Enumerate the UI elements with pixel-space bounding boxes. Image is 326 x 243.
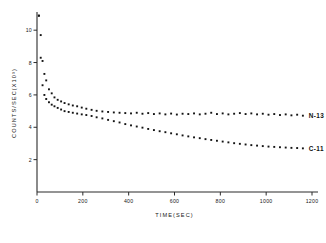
data-point: [233, 142, 235, 144]
x-tick-label: 400: [124, 198, 134, 204]
y-tick-label: 4: [29, 124, 32, 130]
series-c-11: [38, 15, 304, 150]
data-point: [164, 131, 166, 133]
data-point: [193, 112, 195, 114]
data-point: [57, 107, 59, 109]
data-point: [147, 112, 149, 114]
data-point: [268, 114, 270, 116]
x-tick-label: 600: [170, 198, 180, 204]
data-point: [182, 113, 184, 115]
x-tick-label: 1000: [260, 198, 273, 204]
data-point: [45, 98, 47, 100]
data-point: [216, 113, 218, 115]
data-point: [176, 133, 178, 135]
data-point: [273, 146, 275, 148]
data-point: [60, 100, 62, 102]
series-label-c-11: C-11: [309, 145, 324, 152]
x-tick-label: 0: [35, 198, 38, 204]
data-point: [54, 96, 56, 98]
y-tick-label: 6: [29, 92, 32, 98]
data-point: [268, 146, 270, 148]
data-point: [107, 111, 109, 113]
data-point: [227, 113, 229, 115]
data-point: [76, 105, 78, 107]
data-point: [96, 116, 98, 118]
y-tick-label: 8: [29, 60, 32, 66]
data-point: [199, 113, 201, 115]
data-point: [256, 113, 258, 115]
data-point: [96, 110, 98, 112]
data-point: [290, 114, 292, 116]
data-point: [239, 143, 241, 145]
data-point: [54, 105, 56, 107]
data-point: [42, 60, 44, 62]
data-point: [210, 139, 212, 141]
data-point: [245, 113, 247, 115]
data-point: [76, 113, 78, 115]
data-point: [250, 144, 252, 146]
data-point: [170, 132, 172, 134]
data-point: [279, 146, 281, 148]
data-point: [51, 104, 53, 106]
data-point: [85, 108, 87, 110]
data-point: [64, 110, 66, 112]
data-point: [170, 113, 172, 115]
data-point: [136, 126, 138, 128]
data-point: [210, 112, 212, 114]
data-point: [222, 141, 224, 143]
data-point: [91, 109, 93, 111]
data-point: [64, 102, 66, 104]
data-point: [142, 127, 144, 129]
data-point: [285, 147, 287, 149]
data-point: [302, 147, 304, 149]
data-point: [72, 105, 74, 107]
data-point: [68, 111, 70, 113]
series-n-13: [38, 15, 304, 117]
data-point: [42, 84, 44, 86]
data-point: [119, 112, 121, 114]
x-tick-label: 200: [78, 198, 88, 204]
data-point: [85, 114, 87, 116]
data-point: [279, 114, 281, 116]
data-point: [147, 128, 149, 130]
data-point: [68, 103, 70, 105]
data-point: [113, 120, 115, 122]
data-point: [91, 115, 93, 117]
data-point: [222, 112, 224, 114]
x-tick-label: 800: [216, 198, 226, 204]
data-point: [107, 119, 109, 121]
data-point: [205, 138, 207, 140]
data-point: [233, 113, 235, 115]
data-point: [43, 94, 45, 96]
data-point: [296, 147, 298, 149]
data-point: [113, 111, 115, 113]
data-point: [256, 145, 258, 147]
data-point: [164, 113, 166, 115]
data-point: [296, 114, 298, 116]
data-point: [239, 112, 241, 114]
data-point: [290, 147, 292, 149]
data-point: [273, 113, 275, 115]
data-point: [130, 112, 132, 114]
data-point: [245, 144, 247, 146]
data-point: [187, 113, 189, 115]
data-point: [136, 112, 138, 114]
data-point: [51, 92, 53, 94]
data-point: [40, 34, 42, 36]
data-point: [153, 129, 155, 131]
data-point: [81, 107, 83, 109]
data-point: [38, 15, 40, 17]
data-point: [176, 114, 178, 116]
data-point: [57, 99, 59, 101]
x-tick-label: 1200: [306, 198, 319, 204]
data-point: [262, 145, 264, 147]
data-point: [43, 73, 45, 75]
data-point: [124, 112, 126, 114]
data-point: [285, 113, 287, 115]
data-point: [250, 112, 252, 114]
data-point: [101, 117, 103, 119]
y-tick-label: 10: [26, 27, 32, 33]
series-label-n-13: N-13: [309, 112, 324, 119]
data-point: [72, 112, 74, 114]
data-point: [302, 115, 304, 117]
